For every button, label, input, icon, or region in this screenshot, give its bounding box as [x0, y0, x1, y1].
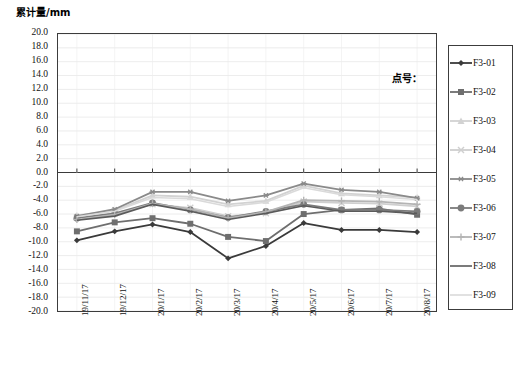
legend-marker-icon [449, 228, 473, 246]
y-tick-label: 4.0 [8, 140, 48, 149]
x-tick-label: 19/12/17 [118, 284, 128, 316]
legend-item-label: F3-07 [473, 232, 496, 242]
y-tick-label: -4.0 [8, 195, 48, 204]
y-tick-label: -20.0 [8, 307, 48, 316]
y-tick-label: -12.0 [8, 251, 48, 260]
legend-item-label: F3-03 [473, 116, 496, 126]
legend-item-f3-03[interactable]: F3-03 [449, 112, 514, 130]
legend-item-f3-02[interactable]: F3-02 [449, 83, 514, 101]
x-tick-label: 20/3/17 [232, 288, 242, 316]
y-tick-label: 2.0 [8, 154, 48, 163]
legend-marker-icon [449, 286, 473, 304]
x-tick-label: 20/4/17 [270, 288, 280, 316]
x-tick-label: 19/11/17 [80, 284, 90, 316]
legend-marker-icon [449, 170, 473, 188]
legend-item-label: F3-05 [473, 174, 496, 184]
legend-marker-icon [449, 112, 473, 130]
legend-item-f3-01[interactable]: F3-01 [449, 54, 514, 72]
y-axis-title: 累计量/mm [16, 4, 71, 19]
x-tick-label: 20/1/17 [156, 288, 166, 316]
legend-item-f3-07[interactable]: F3-07 [449, 228, 514, 246]
y-tick-label: -6.0 [8, 209, 48, 218]
x-tick-label: 20/2/17 [194, 288, 204, 316]
legend-marker-icon [449, 141, 473, 159]
y-tick-label: -8.0 [8, 223, 48, 232]
x-tick-label: 20/7/17 [384, 288, 394, 316]
legend-item-label: F3-09 [473, 290, 496, 300]
chart-page: 累计量/mm 20.018.016.014.012.010.08.06.04.0… [0, 0, 521, 371]
plot-area [57, 33, 437, 312]
y-tick-label: 6.0 [8, 126, 48, 135]
y-tick-label: 12.0 [8, 84, 48, 93]
legend-marker-icon [449, 199, 473, 217]
legend-marker-icon [449, 257, 473, 275]
legend-item-label: F3-04 [473, 145, 496, 155]
legend-item-f3-08[interactable]: F3-08 [449, 257, 514, 275]
x-tick-label: 20/5/17 [308, 288, 318, 316]
legend-item-f3-09[interactable]: F3-09 [449, 286, 514, 304]
legend-item-label: F3-08 [473, 261, 496, 271]
y-tick-label: 10.0 [8, 98, 48, 107]
legend-item-f3-05[interactable]: F3-05 [449, 170, 514, 188]
y-tick-label: 14.0 [8, 70, 48, 79]
point-number-annotation: 点号： [392, 70, 422, 85]
legend-item-f3-06[interactable]: F3-06 [449, 199, 514, 217]
y-tick-label: -10.0 [8, 237, 48, 246]
x-tick-label: 20/6/17 [346, 288, 356, 316]
legend-marker-icon [449, 54, 473, 72]
y-tick-label: 20.0 [8, 28, 48, 37]
legend-item-label: F3-01 [473, 58, 496, 68]
y-tick-label: 0.0 [8, 168, 48, 177]
y-tick-label: 8.0 [8, 112, 48, 121]
x-tick-label: 20/8/17 [422, 288, 432, 316]
y-tick-label: -16.0 [8, 279, 48, 288]
legend: F3-01F3-02F3-03F3-04F3-05F3-06F3-07F3-08… [448, 45, 513, 310]
legend-item-f3-04[interactable]: F3-04 [449, 141, 514, 159]
y-tick-label: -14.0 [8, 265, 48, 274]
y-tick-label: 16.0 [8, 56, 48, 65]
chart-canvas [58, 34, 436, 311]
legend-item-label: F3-06 [473, 203, 496, 213]
legend-item-label: F3-02 [473, 87, 496, 97]
series-f3-01 [74, 220, 420, 261]
y-tick-label: -18.0 [8, 293, 48, 302]
y-tick-label: 18.0 [8, 42, 48, 51]
legend-marker-icon [449, 83, 473, 101]
y-tick-label: -2.0 [8, 181, 48, 190]
